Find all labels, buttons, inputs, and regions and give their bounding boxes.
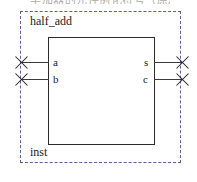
terminal-x-icon-output-s[interactable] bbox=[173, 54, 190, 71]
terminal-x-icon-output-c[interactable] bbox=[173, 71, 190, 88]
instance-name-label: inst bbox=[30, 145, 47, 160]
port-label-input-a: a bbox=[53, 57, 58, 68]
port-label-input-b: b bbox=[53, 74, 59, 85]
component-body-rectangle[interactable] bbox=[48, 37, 155, 145]
schematic-canvas: 半加器的元件例化符号（原理图视图） half_add a b s c inst bbox=[0, 0, 197, 182]
entity-name-label: half_add bbox=[30, 14, 72, 29]
terminal-x-icon-input-b[interactable] bbox=[12, 71, 29, 88]
caption-remnant-text: 半加器的元件例化符号（原理图视图） bbox=[30, 0, 170, 4]
terminal-x-icon-input-a[interactable] bbox=[12, 54, 29, 71]
port-label-output-s: s bbox=[144, 57, 148, 68]
port-label-output-c: c bbox=[143, 74, 148, 85]
